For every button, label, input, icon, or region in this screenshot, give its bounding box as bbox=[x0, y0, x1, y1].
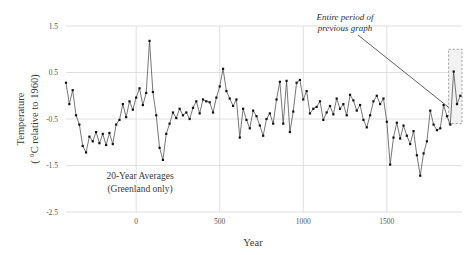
data-point-marker bbox=[419, 175, 421, 177]
data-point-marker bbox=[446, 115, 448, 117]
data-point-marker bbox=[422, 152, 424, 154]
chart-figure: 1.50.5-0.5-1.5-2.5 050010001500 Entire p… bbox=[0, 0, 475, 255]
data-point-marker bbox=[282, 123, 284, 125]
data-point-marker bbox=[195, 100, 197, 102]
data-point-marker bbox=[409, 143, 411, 145]
data-point-marker bbox=[148, 40, 150, 42]
callout-line-1: Entire period of bbox=[315, 12, 375, 22]
data-point-marker bbox=[265, 118, 267, 120]
data-point-marker bbox=[416, 154, 418, 156]
data-point-marker bbox=[412, 130, 414, 132]
data-point-marker bbox=[396, 122, 398, 124]
data-point-marker bbox=[342, 103, 344, 105]
data-point-marker bbox=[399, 137, 401, 139]
y-tick-label: -1.5 bbox=[46, 161, 58, 170]
data-point-marker bbox=[376, 95, 378, 97]
data-point-marker bbox=[85, 151, 87, 153]
data-point-marker bbox=[319, 100, 321, 102]
data-point-marker bbox=[346, 114, 348, 116]
data-point-marker bbox=[292, 110, 294, 112]
data-point-marker bbox=[389, 163, 391, 165]
data-point-marker bbox=[402, 124, 404, 126]
data-point-marker bbox=[122, 103, 124, 105]
data-point-marker bbox=[92, 140, 94, 142]
data-point-marker bbox=[202, 98, 204, 100]
data-point-marker bbox=[215, 97, 217, 99]
data-point-marker bbox=[65, 82, 67, 84]
data-point-marker bbox=[118, 119, 120, 121]
data-point-marker bbox=[112, 143, 114, 145]
data-point-marker bbox=[453, 70, 455, 72]
data-point-marker bbox=[429, 110, 431, 112]
data-point-marker bbox=[432, 123, 434, 125]
data-point-marker bbox=[255, 115, 257, 117]
data-point-marker bbox=[182, 114, 184, 116]
data-point-marker bbox=[179, 108, 181, 110]
data-point-marker bbox=[82, 145, 84, 147]
data-point-marker bbox=[362, 119, 364, 121]
data-point-marker bbox=[88, 136, 90, 138]
data-point-marker bbox=[242, 108, 244, 110]
y-tick-label: -0.5 bbox=[46, 115, 58, 124]
data-point-marker bbox=[449, 123, 451, 125]
data-point-marker bbox=[302, 98, 304, 100]
data-point-marker bbox=[316, 106, 318, 108]
data-point-marker bbox=[142, 104, 144, 106]
data-point-marker bbox=[98, 142, 100, 144]
data-point-marker bbox=[382, 97, 384, 99]
data-point-marker bbox=[352, 99, 354, 101]
data-point-marker bbox=[239, 137, 241, 139]
data-point-marker bbox=[252, 110, 254, 112]
x-axis-title: Year bbox=[243, 237, 263, 248]
data-point-marker bbox=[295, 82, 297, 84]
data-point-marker bbox=[72, 89, 74, 91]
data-point-marker bbox=[235, 98, 237, 100]
data-point-marker bbox=[135, 97, 137, 99]
data-point-marker bbox=[285, 80, 287, 82]
data-point-marker bbox=[312, 108, 314, 110]
data-point-marker bbox=[95, 131, 97, 133]
data-point-marker bbox=[229, 97, 231, 99]
data-point-marker bbox=[366, 126, 368, 128]
data-point-marker bbox=[392, 137, 394, 139]
data-point-marker bbox=[152, 91, 154, 93]
x-tick-label: 500 bbox=[214, 217, 226, 226]
data-point-marker bbox=[359, 104, 361, 106]
data-point-marker bbox=[426, 140, 428, 142]
data-point-marker bbox=[289, 131, 291, 133]
series-note-line-2: (Greenland only) bbox=[107, 184, 172, 195]
y-tick-label: 1.5 bbox=[49, 22, 59, 31]
data-point-marker bbox=[369, 114, 371, 116]
data-point-marker bbox=[222, 68, 224, 70]
series-note-line-1: 20-Year Averages bbox=[106, 171, 173, 181]
data-point-marker bbox=[245, 119, 247, 121]
x-tick-label: 1500 bbox=[379, 217, 394, 226]
data-point-marker bbox=[128, 100, 130, 102]
data-point-marker bbox=[356, 110, 358, 112]
data-point-marker bbox=[459, 95, 461, 97]
data-point-marker bbox=[279, 81, 281, 83]
data-point-marker bbox=[386, 121, 388, 123]
data-point-marker bbox=[189, 118, 191, 120]
data-point-marker bbox=[259, 124, 261, 126]
data-point-marker bbox=[105, 144, 107, 146]
data-point-marker bbox=[102, 133, 104, 135]
data-point-marker bbox=[172, 111, 174, 113]
data-point-marker bbox=[145, 92, 147, 94]
temperature-line-chart: 1.50.5-0.5-1.5-2.5 050010001500 Entire p… bbox=[0, 0, 475, 255]
data-point-marker bbox=[185, 111, 187, 113]
y-tick-label: 0.5 bbox=[49, 68, 59, 77]
data-point-marker bbox=[306, 90, 308, 92]
data-point-marker bbox=[309, 112, 311, 114]
data-point-marker bbox=[436, 129, 438, 131]
data-point-marker bbox=[406, 135, 408, 137]
data-point-marker bbox=[456, 103, 458, 105]
data-point-marker bbox=[232, 105, 234, 107]
data-point-marker bbox=[155, 114, 157, 116]
data-point-marker bbox=[192, 107, 194, 109]
data-point-marker bbox=[262, 135, 264, 137]
data-point-marker bbox=[249, 127, 251, 129]
data-point-marker bbox=[165, 133, 167, 135]
y-axis-title-line-1: Temperature bbox=[15, 92, 26, 145]
data-point-marker bbox=[108, 132, 110, 134]
